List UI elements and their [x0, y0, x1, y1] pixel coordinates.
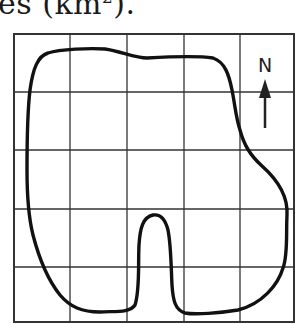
grid	[14, 34, 294, 322]
north-label: N	[258, 54, 272, 76]
map-diagram: N	[0, 0, 296, 324]
area-outline	[27, 49, 287, 314]
compass: N	[258, 54, 272, 128]
north-arrow-icon	[259, 79, 271, 98]
grid-border	[14, 34, 294, 322]
